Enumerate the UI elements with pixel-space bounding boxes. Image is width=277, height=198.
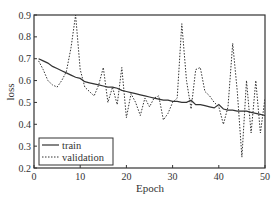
- x-tick-label: 40: [214, 171, 224, 182]
- x-tick-label: 20: [121, 171, 131, 182]
- loss-chart: 0.20.30.40.50.60.70.80.9 01020304050 los…: [0, 0, 277, 198]
- plot-lines: [39, 15, 265, 157]
- chart-svg: 0.20.30.40.50.60.70.80.9 01020304050 los…: [0, 0, 277, 198]
- x-tick-label: 0: [32, 171, 37, 182]
- y-tick-label: 0.2: [19, 163, 32, 174]
- y-tick-label: 0.9: [19, 10, 32, 21]
- x-tick-label: 30: [168, 171, 178, 182]
- y-axis-label: loss: [4, 83, 16, 100]
- legend-train-label: train: [62, 140, 82, 151]
- x-tick-label: 10: [75, 171, 85, 182]
- y-tick-label: 0.6: [19, 75, 32, 86]
- y-tick-label: 0.4: [19, 119, 32, 130]
- x-tick-label: 50: [260, 171, 270, 182]
- y-tick-label: 0.5: [19, 97, 32, 108]
- validation-line: [39, 15, 265, 157]
- legend-validation-label: validation: [62, 152, 105, 163]
- x-axis-label: Epoch: [136, 182, 165, 194]
- y-tick-label: 0.7: [19, 53, 32, 64]
- legend: train validation: [39, 138, 113, 165]
- y-tick-label: 0.8: [19, 31, 32, 42]
- y-tick-label: 0.3: [19, 141, 32, 152]
